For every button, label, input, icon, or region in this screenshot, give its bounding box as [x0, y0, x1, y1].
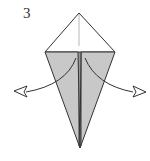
kite-fold-figure [0, 0, 150, 161]
left-arrow-head-icon [14, 86, 27, 97]
right-flap [80, 52, 115, 148]
origami-step-diagram: 3 [0, 0, 150, 161]
right-arrow-head-icon [133, 86, 146, 97]
top-triangle [45, 13, 115, 52]
left-flap [45, 52, 80, 148]
